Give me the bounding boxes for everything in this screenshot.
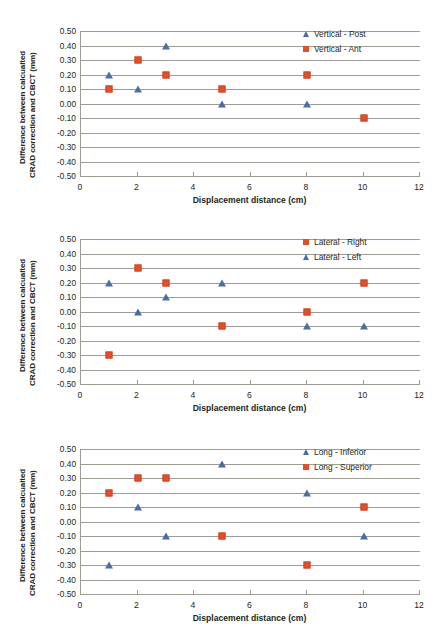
chart-panel-2: Difference between calcualtedCRAD correc… [0, 203, 444, 413]
y-tick-label: 0.10 [60, 85, 76, 94]
gridline [81, 75, 420, 76]
y-tick-label: -0.20 [57, 128, 76, 137]
y-tick-label: -0.10 [57, 532, 76, 541]
plot-area [80, 239, 420, 384]
y-tick-label: 0.50 [60, 235, 76, 244]
x-tick-label: 12 [414, 600, 424, 610]
gridline [81, 254, 420, 255]
gridline [81, 239, 420, 240]
data-point-triangle [218, 100, 226, 107]
x-tick-mark [193, 172, 194, 176]
x-tick-mark [80, 590, 81, 594]
x-tick-label: 8 [304, 600, 309, 610]
data-point-triangle [218, 460, 226, 467]
legend-item: Long - Superior [300, 461, 372, 472]
y-tick-label: -0.50 [57, 380, 76, 389]
y-tick-label: -0.50 [57, 590, 76, 599]
x-tick-mark [363, 590, 364, 594]
data-point-triangle [134, 308, 142, 315]
gridline [81, 341, 420, 342]
data-point-square [360, 279, 367, 286]
x-tick-label: 0 [78, 182, 83, 192]
y-tick-label: 0.00 [60, 99, 76, 108]
data-point-square [134, 57, 141, 64]
data-point-triangle [162, 294, 170, 301]
legend-item: Vertical - Ant [300, 43, 366, 54]
gridline [81, 370, 420, 371]
legend-square-icon [300, 464, 311, 470]
x-tick-label: 6 [247, 390, 252, 400]
data-point-square [360, 115, 367, 122]
gridline [81, 118, 420, 119]
x-tick-label: 4 [191, 390, 196, 400]
y-tick-label: 0.40 [60, 459, 76, 468]
x-axis-title: Displacement distance (cm) [193, 403, 307, 413]
data-point-square [304, 308, 311, 315]
gridline [81, 133, 420, 134]
y-axis-tick-labels: 0.500.400.300.200.100.00-0.10-0.20-0.30-… [42, 0, 76, 203]
data-point-square [106, 86, 113, 93]
data-point-square [304, 562, 311, 569]
y-axis-tick-labels: 0.500.400.300.200.100.00-0.10-0.20-0.30-… [42, 203, 76, 413]
legend-key-glyph [303, 31, 309, 37]
y-tick-label: -0.20 [57, 546, 76, 555]
x-tick-label: 0 [78, 600, 83, 610]
y-axis-title-line2: CRAD correction and CBCT (mm) [28, 451, 37, 596]
data-point-square [134, 475, 141, 482]
gridline [81, 268, 420, 269]
data-point-square [219, 533, 226, 540]
legend-label: Vertical - Ant [314, 44, 361, 54]
x-tick-label: 0 [78, 390, 83, 400]
x-axis-line [80, 594, 419, 595]
data-point-square [219, 323, 226, 330]
data-point-square [106, 489, 113, 496]
x-tick-mark [137, 380, 138, 384]
legend-item: Lateral - Left [300, 251, 367, 262]
x-tick-label: 12 [414, 390, 424, 400]
y-tick-label: 0.00 [60, 517, 76, 526]
data-point-square [162, 279, 169, 286]
x-axis-title: Displacement distance (cm) [193, 613, 307, 623]
x-tick-mark [419, 590, 420, 594]
legend-square-icon [300, 46, 311, 52]
chart-panel-3: Difference between calcualtedCRAD correc… [0, 413, 444, 631]
x-tick-mark [419, 380, 420, 384]
legend-item: Long - Inferior [300, 446, 372, 457]
y-axis-title-line2: CRAD correction and CBCT (mm) [28, 241, 37, 386]
data-point-square [304, 71, 311, 78]
legend-label: Vertical - Post [314, 29, 366, 39]
gridline [81, 89, 420, 90]
gridline [81, 565, 420, 566]
legend-label: Lateral - Right [314, 237, 367, 247]
x-tick-label: 4 [191, 182, 196, 192]
data-point-triangle [303, 489, 311, 496]
data-point-square [162, 475, 169, 482]
x-tick-mark [363, 380, 364, 384]
data-point-triangle [360, 533, 368, 540]
legend-square-icon [300, 239, 311, 245]
plot-area [80, 31, 420, 176]
legend-triangle-icon [300, 449, 311, 455]
legend-triangle-icon [300, 254, 311, 260]
legend-item: Lateral - Right [300, 236, 367, 247]
x-tick-mark [306, 380, 307, 384]
x-tick-label: 2 [134, 390, 139, 400]
y-tick-label: -0.50 [57, 172, 76, 181]
y-tick-label: 0.40 [60, 249, 76, 258]
y-tick-label: 0.20 [60, 488, 76, 497]
data-point-triangle [303, 323, 311, 330]
gridline [81, 283, 420, 284]
data-point-square [162, 71, 169, 78]
data-point-triangle [134, 504, 142, 511]
x-tick-mark [80, 172, 81, 176]
x-tick-label: 2 [134, 182, 139, 192]
y-tick-label: -0.30 [57, 561, 76, 570]
gridline [81, 551, 420, 552]
legend-key-glyph [303, 254, 309, 260]
data-point-square [106, 352, 113, 359]
legend-key-glyph [303, 449, 309, 455]
x-tick-label: 8 [304, 182, 309, 192]
gridline [81, 104, 420, 105]
y-tick-label: 0.30 [60, 474, 76, 483]
y-tick-label: 0.00 [60, 307, 76, 316]
